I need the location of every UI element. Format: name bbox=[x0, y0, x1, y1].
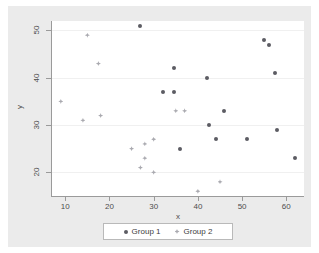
y-tick-label: 40 bbox=[32, 70, 41, 86]
x-tick-label: 20 bbox=[105, 202, 114, 211]
legend[interactable]: Group 1 Group 2 bbox=[103, 223, 233, 240]
x-tick-label: 40 bbox=[193, 202, 202, 211]
plot-area bbox=[52, 21, 304, 196]
y-axis-title: y bbox=[15, 105, 24, 109]
x-tick bbox=[109, 197, 110, 201]
y-tick bbox=[46, 78, 51, 79]
x-tick bbox=[198, 197, 199, 201]
y-axis-line bbox=[51, 21, 52, 197]
x-tick bbox=[242, 197, 243, 201]
y-tick-label: 30 bbox=[32, 117, 41, 133]
x-tick-label: 60 bbox=[282, 202, 291, 211]
x-axis-line bbox=[51, 196, 304, 197]
x-tick-label: 10 bbox=[61, 202, 70, 211]
legend-label-group-1: Group 1 bbox=[132, 227, 161, 236]
y-tick bbox=[46, 125, 51, 126]
x-tick-label: 30 bbox=[149, 202, 158, 211]
x-axis-title: x bbox=[176, 212, 180, 221]
legend-entry-group-1[interactable]: Group 1 bbox=[124, 227, 161, 236]
y-tick-label: 20 bbox=[32, 164, 41, 180]
circle-marker-icon bbox=[124, 230, 128, 234]
y-tick bbox=[46, 172, 51, 173]
graph-region: 20304050 102030405060 y x Group 1 Group … bbox=[8, 6, 311, 247]
legend-entry-group-2[interactable]: Group 2 bbox=[175, 227, 213, 236]
scatter-plot-figure: 20304050 102030405060 y x Group 1 Group … bbox=[0, 0, 319, 253]
x-tick-label: 50 bbox=[238, 202, 247, 211]
y-tick bbox=[46, 30, 51, 31]
diamond-marker-icon bbox=[175, 229, 180, 234]
legend-label-group-2: Group 2 bbox=[184, 227, 213, 236]
y-tick-label: 50 bbox=[32, 22, 41, 38]
x-tick bbox=[154, 197, 155, 201]
x-tick bbox=[286, 197, 287, 201]
x-tick bbox=[65, 197, 66, 201]
